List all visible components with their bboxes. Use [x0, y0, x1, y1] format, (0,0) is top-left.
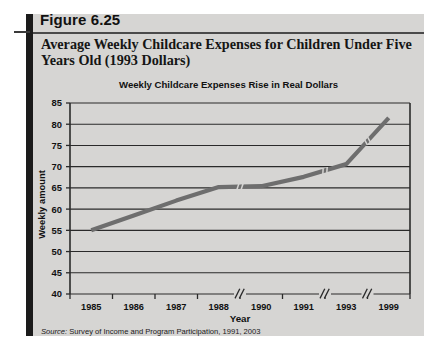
chart-title: Weekly Childcare Expenses Rise in Real D…: [33, 79, 424, 90]
source-text: Survey of Income and Program Participati…: [69, 327, 260, 336]
y-axis-label-text: Weekly amount: [36, 160, 47, 250]
source-prefix: Source:: [41, 327, 67, 336]
figure-number: Figure 6.25: [40, 11, 120, 28]
figure-title: Average Weekly Childcare Expenses for Ch…: [41, 37, 421, 68]
y-axis-label: Weekly amount: [30, 150, 52, 260]
source-note: Source: Survey of Income and Program Par…: [41, 327, 261, 336]
figure-root: Figure 6.25 Average Weekly Childcare Exp…: [0, 0, 442, 364]
figure-header-rule: [33, 32, 424, 34]
x-axis-label: Year: [70, 313, 410, 324]
figure-number-rule-left: [14, 31, 30, 33]
